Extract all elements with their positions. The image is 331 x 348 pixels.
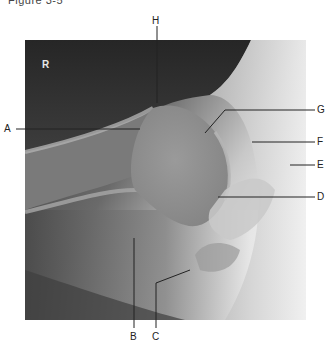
- label-c: C: [152, 332, 159, 342]
- label-f: F: [317, 137, 323, 147]
- leader-line-c: [156, 270, 190, 328]
- label-h: H: [152, 16, 159, 26]
- label-g: G: [317, 105, 325, 115]
- leader-line-g: [205, 110, 315, 133]
- leader-lines: [0, 0, 331, 348]
- label-b: B: [130, 332, 137, 342]
- label-a: A: [4, 124, 11, 134]
- label-d: D: [317, 192, 324, 202]
- label-e: E: [317, 160, 324, 170]
